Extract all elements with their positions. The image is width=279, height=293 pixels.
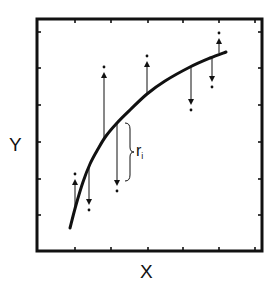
- arrowhead-icon: [216, 38, 222, 44]
- data-point: [116, 190, 119, 193]
- residual-arrow: [144, 55, 150, 93]
- residual-arrows: [72, 32, 222, 212]
- arrowhead-icon: [114, 180, 120, 186]
- data-point: [190, 109, 193, 112]
- data-point: [88, 209, 91, 212]
- residual-arrow: [114, 123, 120, 192]
- arrowhead-icon: [144, 61, 150, 67]
- residual-subscript: i: [141, 151, 143, 161]
- fitted-curve: [70, 52, 226, 228]
- residual-label: ri: [136, 143, 143, 161]
- arrowhead-icon: [209, 76, 215, 82]
- plot-frame: [37, 19, 262, 251]
- data-point: [103, 66, 106, 69]
- arrowhead-icon: [72, 179, 78, 185]
- data-point: [146, 55, 149, 58]
- data-point: [211, 86, 214, 89]
- data-point: [74, 173, 77, 176]
- y-axis-label: Y: [9, 135, 22, 154]
- residual-brace: [125, 123, 134, 181]
- residual-arrow: [216, 32, 222, 53]
- axis-ticks: [37, 19, 262, 251]
- residual-arrow: [101, 66, 107, 138]
- x-axis-label: X: [140, 262, 153, 281]
- residual-arrow: [209, 57, 215, 88]
- arrowhead-icon: [86, 199, 92, 205]
- data-point: [218, 32, 221, 35]
- residual-arrow: [188, 66, 194, 111]
- arrowhead-icon: [188, 99, 194, 105]
- arrowhead-icon: [101, 72, 107, 78]
